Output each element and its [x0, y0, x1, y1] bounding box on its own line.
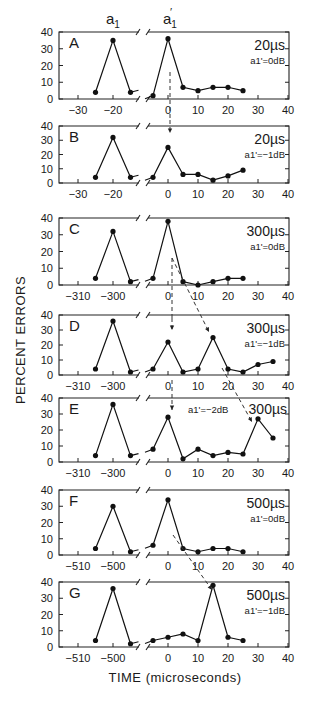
panel-letter: D	[69, 317, 80, 334]
x-tick-label: 20	[222, 467, 234, 479]
data-point	[195, 638, 200, 643]
data-point	[195, 282, 200, 287]
data-point	[240, 549, 245, 554]
data-point	[93, 175, 98, 180]
data-point	[180, 369, 185, 374]
figure: a1 a1′ PERCENT ERRORS TIME (microseconds…	[0, 0, 317, 702]
data-point	[180, 631, 185, 636]
panel-e: 010203040−310−300010203040E300µsa1'=−2dB	[41, 392, 294, 479]
data-point	[128, 641, 133, 646]
panel-g: 010203040−510−500010203040G500µsa1'=−1dB	[41, 576, 294, 664]
x-tick-label: −300	[101, 380, 126, 392]
arrow-head-icon	[168, 128, 172, 133]
dashed-arrows	[168, 72, 252, 590]
data-point	[165, 36, 170, 41]
data-point	[195, 88, 200, 93]
data-point	[110, 318, 115, 323]
level-label: a1'=0dB	[250, 55, 285, 66]
data-point	[210, 279, 215, 284]
data-point	[195, 447, 200, 452]
panel-letter: F	[69, 492, 78, 509]
x-tick-label: 30	[252, 467, 264, 479]
y-tick-label: 0	[47, 456, 53, 468]
x-tick-label: 40	[282, 652, 294, 664]
x-tick-label: −30	[69, 188, 88, 200]
data-point	[110, 135, 115, 140]
y-tick-label: 30	[41, 229, 53, 241]
x-tick-label: −310	[66, 290, 91, 302]
y-tick-label: 40	[41, 120, 53, 132]
data-point	[150, 175, 155, 180]
data-point	[110, 586, 115, 591]
x-tick-label: 10	[192, 380, 204, 392]
y-tick-label: 10	[41, 533, 53, 545]
duration-label: 500µs	[247, 495, 285, 511]
x-tick-label: 10	[192, 652, 204, 664]
y-tick-label: 40	[41, 576, 53, 588]
x-tick-label: −310	[66, 467, 91, 479]
x-tick-label: −20	[104, 188, 123, 200]
duration-label: 20µs	[254, 131, 285, 147]
x-tick-label: 10	[192, 104, 204, 116]
data-point	[195, 172, 200, 177]
y-tick-label: 30	[41, 592, 53, 604]
y-tick-label: 20	[41, 246, 53, 258]
data-point	[128, 279, 133, 284]
data-point	[165, 415, 170, 420]
y-tick-label: 10	[41, 163, 53, 175]
y-tick-label: 10	[41, 625, 53, 637]
data-point	[165, 339, 170, 344]
data-point	[128, 90, 133, 95]
x-tick-label: −310	[66, 380, 91, 392]
x-tick-label: 20	[222, 290, 234, 302]
data-point	[225, 450, 230, 455]
y-tick-label: 0	[47, 369, 53, 381]
data-point	[210, 546, 215, 551]
data-point	[93, 90, 98, 95]
data-point	[93, 366, 98, 371]
data-point	[165, 635, 170, 640]
x-tick-label: 0	[165, 188, 171, 200]
data-point	[225, 276, 230, 281]
level-label: a1'=−1dB	[245, 149, 285, 160]
panel-c: 010203040−310−300010203040C300µsa1'=0dB	[41, 212, 294, 302]
y-tick-label: 30	[41, 500, 53, 512]
data-point	[93, 453, 98, 458]
data-point	[150, 93, 155, 98]
y-tick-label: 10	[41, 354, 53, 366]
header-label-a1-prime: a1′	[163, 6, 177, 30]
data-point	[180, 172, 185, 177]
x-tick-label: 20	[222, 560, 234, 572]
data-point	[93, 276, 98, 281]
y-tick-label: 40	[41, 484, 53, 496]
y-tick-label: 20	[41, 339, 53, 351]
x-tick-label: 30	[252, 188, 264, 200]
data-point	[270, 359, 275, 364]
x-tick-label: 30	[252, 652, 264, 664]
x-tick-label: 40	[282, 380, 294, 392]
panel-letter: G	[69, 584, 81, 601]
data-point	[225, 635, 230, 640]
y-tick-label: 20	[41, 609, 53, 621]
data-point	[150, 366, 155, 371]
panels: 010203040−30−20010203040A20µsa1'=0dB0102…	[41, 26, 294, 664]
level-label: a1'=−1dB	[245, 605, 285, 616]
y-tick-label: 20	[41, 517, 53, 529]
data-point	[93, 546, 98, 551]
data-point	[240, 369, 245, 374]
x-tick-label: 10	[192, 290, 204, 302]
x-tick-label: 10	[192, 188, 204, 200]
y-tick-label: 0	[47, 93, 53, 105]
data-point	[150, 447, 155, 452]
data-point	[195, 366, 200, 371]
data-point	[225, 85, 230, 90]
y-tick-label: 0	[47, 279, 53, 291]
data-point	[128, 549, 133, 554]
data-point	[110, 504, 115, 509]
duration-label: 300µs	[249, 401, 287, 417]
data-point	[210, 335, 215, 340]
data-point	[180, 85, 185, 90]
y-tick-label: 10	[41, 76, 53, 88]
level-label: a1'=0dB	[250, 513, 285, 524]
x-tick-label: 40	[282, 188, 294, 200]
